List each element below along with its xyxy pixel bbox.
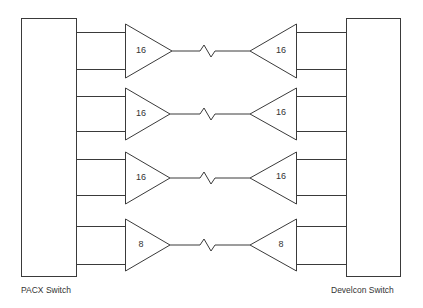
right-count-1: 16 (271, 45, 291, 55)
develcon-switch-box (347, 19, 401, 277)
right-count-2: 16 (271, 107, 291, 117)
left-count-4: 8 (131, 239, 151, 249)
link-2 (77, 88, 346, 140)
pacx-switch-box (22, 19, 77, 277)
develcon-switch-label: Develcon Switch (331, 285, 394, 295)
right-count-3: 16 (271, 171, 291, 181)
left-count-2: 16 (131, 108, 151, 118)
left-count-1: 16 (131, 45, 151, 55)
link-3 (77, 152, 346, 204)
right-count-4: 8 (271, 239, 291, 249)
link-1 (77, 24, 346, 78)
pacx-switch-label: PACX Switch (21, 285, 71, 295)
left-count-3: 16 (131, 172, 151, 182)
zigzag-line (172, 45, 250, 57)
link-4 (77, 219, 346, 271)
diagram-canvas (0, 0, 423, 308)
